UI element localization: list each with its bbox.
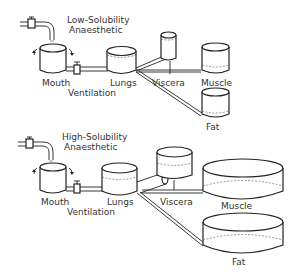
ventilation-pipe — [66, 181, 103, 193]
mouth-label: Mouth — [41, 197, 69, 207]
viscera-container — [157, 147, 192, 190]
mouth-container — [32, 44, 74, 73]
low-solubility-diagram: Low-Solubility Anaesthetic Mouth Ventila… — [20, 15, 233, 132]
muscle-label: Muscle — [221, 201, 253, 211]
circulation-pipes — [137, 173, 204, 246]
mouth-label: Mouth — [42, 78, 70, 88]
muscle-label: Muscle — [201, 78, 233, 88]
viscera-label: Viscera — [152, 78, 185, 88]
lungs-label: Lungs — [107, 197, 134, 207]
ventilation-label: Ventilation — [67, 207, 115, 217]
anaesthetic-uptake-diagram: Low-Solubility Anaesthetic Mouth Ventila… — [0, 0, 298, 278]
tap-icon — [20, 17, 54, 45]
ventilation-label: Ventilation — [68, 88, 116, 98]
title-line1: High-Solubility — [62, 132, 128, 142]
lungs-label: Lungs — [110, 78, 137, 88]
high-solubility-diagram: High-Solubility Anaesthetic Mouth Ventil… — [18, 132, 283, 267]
mouth-container — [32, 163, 74, 193]
fat-container — [203, 213, 283, 253]
viscera-container — [161, 32, 176, 74]
lungs-container — [102, 163, 137, 195]
tap-icon — [18, 137, 53, 164]
fat-container — [202, 88, 229, 117]
title-line1: Low-Solubility — [67, 15, 130, 25]
muscle-container — [203, 159, 283, 199]
fat-label: Fat — [206, 122, 220, 132]
title-line2: Anaesthetic — [64, 142, 117, 152]
fat-label: Fat — [232, 257, 246, 267]
muscle-container — [202, 43, 229, 73]
ventilation-pipe — [66, 62, 108, 74]
title-line2: Anaesthetic — [69, 25, 122, 35]
lungs-container — [107, 47, 136, 74]
viscera-label: Viscera — [160, 197, 193, 207]
